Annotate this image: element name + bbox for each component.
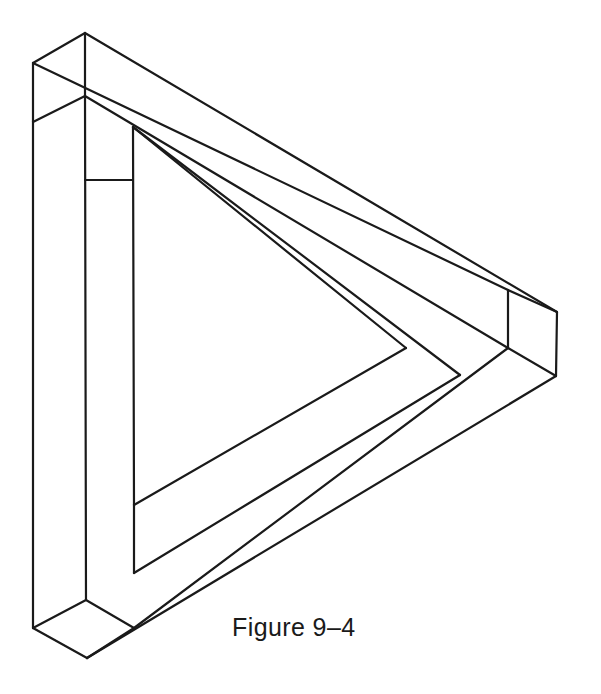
figure-caption: Figure 9–4 (232, 613, 356, 642)
left-bar-side-face (85, 96, 135, 600)
bar-faces (33, 33, 557, 658)
right-cap-outer-vertical (556, 312, 557, 376)
bottom-bar-top-fold (134, 348, 508, 628)
figure-container: Figure 9–4 (0, 0, 601, 694)
left-bar-middle-vertical (85, 96, 86, 600)
bottom-bar-band-fold (134, 375, 460, 573)
penrose-triangle-drawing (0, 0, 601, 694)
left-bar-front-face (33, 63, 85, 628)
left-bar-inner-vertical (133, 127, 134, 505)
top-bar-inner-bottom-edge (85, 96, 508, 348)
